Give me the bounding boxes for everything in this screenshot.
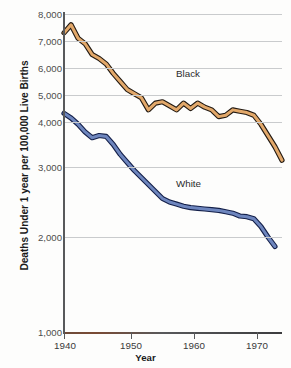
- infant-mortality-chart: Deaths Under 1 year per 100,000 Live Bir…: [0, 0, 291, 368]
- gridline-7000: [64, 41, 282, 42]
- x-tick-1950: [131, 332, 132, 339]
- x-label-1960: 1960: [183, 340, 205, 351]
- y-tick-6000: 6,000: [20, 64, 62, 73]
- white-series-path: [64, 113, 275, 246]
- y-axis-line: [63, 12, 65, 334]
- gridline-5000: [64, 95, 282, 96]
- y-tick-4000: 4,000: [20, 118, 62, 127]
- gridline-3000: [64, 167, 282, 168]
- y-tick-2000: 2,000: [20, 233, 62, 242]
- x-axis-line: [64, 332, 282, 334]
- gridline-2000: [64, 237, 282, 238]
- x-label-1940: 1940: [54, 340, 76, 351]
- series-lines: [64, 14, 282, 332]
- gridline-8000: [64, 14, 282, 15]
- series-label-black: Black: [176, 68, 200, 79]
- series-label-white: White: [176, 178, 201, 189]
- gridline-6000: [64, 68, 282, 69]
- x-tick-1960: [194, 332, 195, 339]
- x-axis-title: Year: [0, 352, 291, 363]
- y-axis-tick-labels: 8,000 7,000 6,000 5,000 4,000 3,000 2,00…: [14, 0, 62, 368]
- y-tick-7000: 7,000: [20, 37, 62, 46]
- black-series-path: [64, 25, 282, 160]
- x-label-1950: 1950: [120, 340, 142, 351]
- y-tick-5000: 5,000: [20, 91, 62, 100]
- y-tick-3000: 3,000: [20, 163, 62, 172]
- plot-area: [64, 14, 282, 332]
- x-tick-1970: [257, 332, 258, 339]
- x-tick-1940: [64, 332, 65, 339]
- y-tick-1000: 1,000: [20, 328, 62, 337]
- x-label-1970: 1970: [246, 340, 268, 351]
- gridline-4000: [64, 122, 282, 123]
- y-tick-8000: 8,000: [20, 10, 62, 19]
